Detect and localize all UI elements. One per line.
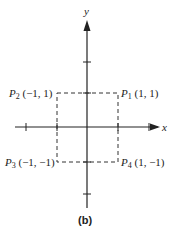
point-name: P (9, 87, 16, 99)
x-axis-label: x (162, 121, 167, 133)
point-coords: (1, −1) (134, 156, 164, 168)
point-label-p1: P1 (1, 1) (121, 87, 158, 103)
point-subscript: 3 (12, 161, 16, 170)
y-axis-arrow-icon (84, 20, 91, 31)
coordinate-diagram (0, 0, 181, 242)
point-subscript: 2 (16, 92, 20, 101)
figure-caption: (b) (78, 214, 92, 226)
point-coords: (−1, 1) (22, 87, 52, 99)
point-coords: (1, 1) (134, 87, 158, 99)
x-axis-label-text: x (162, 121, 167, 133)
point-coords: (−1, −1) (18, 156, 54, 168)
point-label-p3: P3 (−1, −1) (5, 156, 55, 172)
point-name: P (5, 156, 12, 168)
y-axis-label: y (84, 5, 89, 17)
y-axis-label-text: y (84, 5, 89, 17)
point-name: P (121, 156, 128, 168)
point-label-p4: P4 (1, −1) (121, 156, 165, 172)
point-subscript: 1 (128, 92, 132, 101)
point-subscript: 4 (128, 161, 132, 170)
point-label-p2: P2 (−1, 1) (9, 87, 53, 103)
point-name: P (121, 87, 128, 99)
x-axis-arrow-icon (150, 124, 160, 131)
